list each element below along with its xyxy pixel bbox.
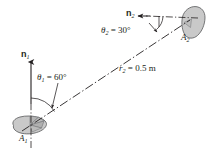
- normal-2-label: n2: [126, 9, 135, 18]
- area-1-label: A1: [19, 134, 28, 143]
- angle-2-label: θ2 = 30°: [101, 26, 131, 35]
- distance-value: 0.5 m: [135, 63, 156, 73]
- normal-1-label: n1: [21, 50, 30, 59]
- angle-1-label: θ1 = 60°: [37, 73, 67, 82]
- angle-1-equals: =: [44, 72, 54, 82]
- normal-1-symbol: n: [21, 49, 27, 59]
- normal-2-subscript: 2: [132, 13, 135, 19]
- distance-symbol: r: [119, 63, 123, 73]
- area-2-symbol: A: [181, 32, 187, 42]
- area-1-symbol: A: [19, 133, 25, 143]
- distance-equals: =: [126, 63, 136, 73]
- normal-2-symbol: n: [126, 8, 132, 18]
- angle-2-leader: [149, 23, 157, 32]
- distance-subscript: 2: [123, 68, 126, 74]
- angle-2-arc: [157, 17, 164, 30]
- distance-label: r2 = 0.5 m: [119, 64, 156, 73]
- angle-1-value: 60°: [54, 72, 67, 82]
- angle-2-equals: =: [108, 25, 118, 35]
- angle-1-arc: [31, 98, 55, 112]
- normal-1-subscript: 1: [27, 54, 30, 60]
- area-2-subscript: 2: [187, 37, 190, 43]
- area-1-subscript: 1: [25, 138, 28, 144]
- angle-2-value: 30°: [118, 25, 131, 35]
- figure-canvas: [0, 0, 211, 148]
- area-2-label: A2: [181, 33, 190, 42]
- angle-1-leader: [52, 83, 58, 108]
- view-factor-figure: n1 θ1 = 60° A1 n2 θ2 = 30° A2 r2 = 0.5 m: [0, 0, 211, 148]
